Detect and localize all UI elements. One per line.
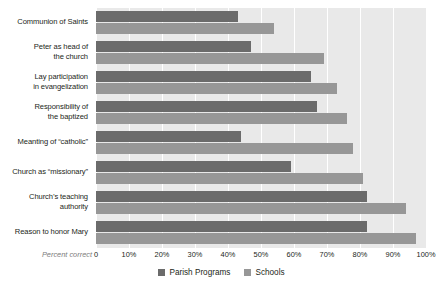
bar-parish-programs bbox=[96, 131, 241, 142]
category-label: Communion of Saints bbox=[0, 17, 88, 27]
x-tick-label: 90% bbox=[386, 250, 401, 259]
category-label: Meanting of “catholic” bbox=[0, 137, 88, 147]
category-label-line: authority bbox=[0, 202, 88, 212]
category-label-line: in evangelization bbox=[0, 82, 88, 92]
bar-schools bbox=[96, 83, 337, 94]
bar-group bbox=[96, 101, 426, 131]
bar-parish-programs bbox=[96, 221, 367, 232]
category-label: Reason to honor Mary bbox=[0, 227, 88, 237]
legend-swatch-icon bbox=[158, 269, 165, 276]
bar-schools bbox=[96, 233, 416, 244]
bar-group bbox=[96, 11, 426, 41]
bar-schools bbox=[96, 23, 274, 34]
x-axis-ticks: 010%20%30%40%50%60%70%80%90%100% bbox=[96, 250, 426, 262]
x-tick-label: 10% bbox=[122, 250, 137, 259]
legend-label: Schools bbox=[255, 268, 284, 277]
legend-label: Parish Programs bbox=[169, 268, 230, 277]
x-tick-label: 50% bbox=[254, 250, 269, 259]
category-label: Church as “missionary” bbox=[0, 167, 88, 177]
category-label: Lay participationin evangelization bbox=[0, 72, 88, 91]
category-label-line: the baptized bbox=[0, 112, 88, 122]
category-label-line: Church’s teaching bbox=[0, 192, 88, 202]
bar-schools bbox=[96, 143, 353, 154]
bar-group bbox=[96, 191, 426, 221]
category-label: Church’s teachingauthority bbox=[0, 192, 88, 211]
category-label-line: Peter as head of bbox=[0, 42, 88, 52]
bar-group bbox=[96, 131, 426, 161]
legend-swatch-icon bbox=[244, 269, 251, 276]
category-label-line: Lay participation bbox=[0, 72, 88, 82]
category-axis-labels: Communion of SaintsPeter as head ofthe c… bbox=[0, 8, 92, 248]
bar-parish-programs bbox=[96, 11, 238, 22]
x-tick-label: 20% bbox=[155, 250, 170, 259]
x-tick-label: 80% bbox=[353, 250, 368, 259]
bar-parish-programs bbox=[96, 71, 311, 82]
bar-schools bbox=[96, 53, 324, 64]
legend-item[interactable]: Parish Programs bbox=[158, 268, 230, 277]
bar-schools bbox=[96, 173, 363, 184]
plot-area bbox=[96, 8, 426, 248]
bar-group bbox=[96, 71, 426, 101]
bar-parish-programs bbox=[96, 41, 251, 52]
bar-group bbox=[96, 221, 426, 251]
grouped-bar-chart: Communion of SaintsPeter as head ofthe c… bbox=[0, 0, 443, 286]
x-tick-label: 0 bbox=[94, 250, 98, 259]
category-label-line: Reason to honor Mary bbox=[0, 227, 88, 237]
category-label-line: Communion of Saints bbox=[0, 17, 88, 27]
category-label-line: Church as “missionary” bbox=[0, 167, 88, 177]
gridline-100 bbox=[426, 8, 427, 248]
x-tick-label: 40% bbox=[221, 250, 236, 259]
category-label-line: Responsibility of bbox=[0, 102, 88, 112]
category-label: Peter as head ofthe church bbox=[0, 42, 88, 61]
category-label: Responsibility ofthe baptized bbox=[0, 102, 88, 121]
bar-group bbox=[96, 161, 426, 191]
legend-item[interactable]: Schools bbox=[244, 268, 284, 277]
category-label-line: the church bbox=[0, 52, 88, 62]
chart-legend: Parish ProgramsSchools bbox=[0, 268, 443, 277]
x-tick-label: 70% bbox=[320, 250, 335, 259]
x-axis-title: Percent correct bbox=[8, 250, 92, 259]
bar-parish-programs bbox=[96, 101, 317, 112]
bar-parish-programs bbox=[96, 161, 291, 172]
x-tick-label: 30% bbox=[188, 250, 203, 259]
x-tick-label: 60% bbox=[287, 250, 302, 259]
bar-schools bbox=[96, 113, 347, 124]
bar-group bbox=[96, 41, 426, 71]
category-label-line: Meanting of “catholic” bbox=[0, 137, 88, 147]
bar-parish-programs bbox=[96, 191, 367, 202]
x-tick-label: 100% bbox=[417, 250, 436, 259]
bar-schools bbox=[96, 203, 406, 214]
